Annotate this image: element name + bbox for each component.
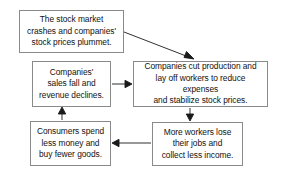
- flowchart-diagram: The stock market crashes and companies' …: [0, 0, 281, 178]
- node-stock-market-crash: The stock market crashes and companies' …: [19, 10, 124, 53]
- node-cut-production-label: Companies cut production and lay off wor…: [137, 61, 264, 107]
- node-workers-lose-jobs-label: More workers lose their jobs and collect…: [156, 127, 239, 161]
- arrow-crash-to-cut: [124, 32, 194, 59]
- arrow-consumers-to-sales: [58, 107, 65, 120]
- arrow-sales-to-cut: [112, 80, 132, 87]
- arrow-workers-to-consumers: [112, 139, 151, 146]
- node-workers-lose-jobs: More workers lose their jobs and collect…: [152, 122, 243, 166]
- node-cut-production: Companies cut production and lay off wor…: [133, 61, 268, 107]
- arrow-cut-to-workers: [186, 108, 193, 121]
- node-sales-fall: Companies' sales fall and revenue declin…: [32, 61, 111, 107]
- node-sales-fall-label: Companies' sales fall and revenue declin…: [36, 67, 107, 101]
- node-consumers-spend-less-label: Consumers spend less money and buy fewer…: [34, 126, 107, 160]
- node-consumers-spend-less: Consumers spend less money and buy fewer…: [30, 121, 111, 166]
- node-stock-market-crash-label: The stock market crashes and companies' …: [23, 14, 120, 48]
